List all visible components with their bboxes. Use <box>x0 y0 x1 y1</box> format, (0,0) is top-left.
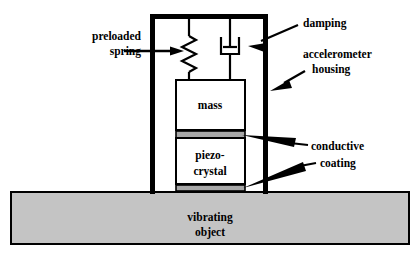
conductive-coating-label-line2: coating <box>320 157 356 170</box>
seismic-mass: mass <box>176 80 245 130</box>
piezo-crystal-label-line2: crystal <box>193 165 226 178</box>
conductive-coating-callout: conductive coating <box>242 135 364 188</box>
piezo-crystal: piezo- crystal <box>176 138 245 184</box>
accelerometer-schematic: vibrating object <box>0 0 420 259</box>
preloaded-spring <box>182 19 196 80</box>
spring-coil <box>182 36 196 72</box>
vibrating-object: vibrating object <box>11 192 409 244</box>
vibrating-object-label-line1: vibrating <box>187 211 233 224</box>
accelerometer-housing-arrow-head <box>270 80 292 91</box>
preloaded-spring-callout: preloaded spring <box>92 30 184 58</box>
preloaded-spring-label-line1: preloaded <box>92 30 142 43</box>
conductive-coating-label-line1: conductive <box>311 140 364 152</box>
conductive-coating-bottom-arrow-head <box>243 162 306 188</box>
mass-label: mass <box>198 99 223 111</box>
damping-dashpot <box>221 19 239 80</box>
damping-label: damping <box>303 17 347 30</box>
accelerometer-housing-callout: accelerometer housing <box>270 48 372 91</box>
housing-left-wall <box>150 14 155 194</box>
damping-arrow-head <box>248 43 266 52</box>
conductive-coating-bottom <box>176 185 245 191</box>
piezo-crystal-body <box>176 138 245 184</box>
accelerometer-housing-label-line1: accelerometer <box>303 48 372 60</box>
accelerometer-housing-label-line2: housing <box>312 63 351 76</box>
damping-callout: damping <box>248 17 347 52</box>
conductive-coating-top-arrow-head <box>242 135 296 147</box>
conductive-coating-top <box>176 131 245 138</box>
housing-top-wall <box>150 14 268 19</box>
coating-bottom-band <box>176 185 245 191</box>
piezo-crystal-label-line1: piezo- <box>195 149 225 162</box>
diagram-canvas: vibrating object <box>0 0 420 259</box>
coating-top-band <box>176 131 245 138</box>
vibrating-object-label-line2: object <box>195 226 225 239</box>
